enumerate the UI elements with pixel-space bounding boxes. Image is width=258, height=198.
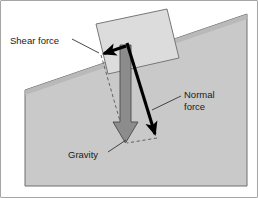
normal-force-label-line1: Normal (184, 89, 215, 100)
gravity-label: Gravity (68, 149, 98, 160)
diagram-canvas: Shear force Normal force Gravity (0, 0, 258, 198)
shear-force-label: Shear force (10, 35, 59, 46)
normal-force-label-line2: force (184, 101, 205, 112)
force-diagram-figure: Shear force Normal force Gravity (0, 0, 258, 198)
